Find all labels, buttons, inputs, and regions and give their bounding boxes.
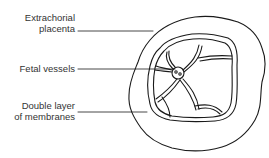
cord-insertion (172, 67, 184, 79)
outer-placenta-outline (129, 16, 265, 151)
vessel (166, 52, 173, 69)
placenta-illustration (0, 0, 269, 158)
vessel (198, 56, 232, 58)
membrane-outer (148, 34, 238, 122)
membrane-inner (154, 39, 233, 118)
